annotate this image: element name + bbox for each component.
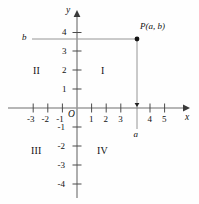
y-tick-label-neg2: -2 [58,142,66,151]
quadrant-label-iv: IV [97,146,108,156]
y-axis-arrowhead [74,10,81,17]
y-tick-label-neg1: -1 [58,123,66,132]
origin-label: O [68,110,75,120]
x-tick-label-5: 5 [162,115,167,124]
y-axis-label: y [66,6,70,16]
x-tick-label-2: 2 [104,115,109,124]
quadrant-label-i: I [101,66,105,76]
y-tick-label-4: 4 [62,28,67,37]
x-tick-label-neg2: -2 [42,115,50,124]
y-tick-label-neg4: -4 [58,180,66,189]
y-tick-label-2: 2 [62,66,67,75]
y-coordinate-label-b: b [22,33,27,42]
point-p-label: P(a, b) [140,22,165,31]
coordinate-axes-graphic [0,0,199,204]
x-axis-label: x [185,113,189,123]
x-axis-arrowhead [183,105,190,112]
x-coordinate-label-a: a [134,130,139,139]
x-tick-label-1: 1 [89,115,94,124]
x-tick-label-neg3: -3 [27,115,35,124]
y-tick-label-3: 3 [62,47,67,56]
x-tick-label-4: 4 [147,115,152,124]
a-tick-marker [135,103,140,107]
y-tick-label-neg3: -3 [58,161,66,170]
point-p-marker [135,37,140,42]
quadrant-label-ii: II [33,66,40,76]
coordinate-plane-figure: x y O -3 -2 -1 1 2 3 4 5 4 3 2 1 -1 -2 -… [0,0,199,204]
quadrant-label-iii: III [31,146,42,156]
y-tick-label-1: 1 [62,85,67,94]
x-tick-label-3: 3 [118,115,123,124]
